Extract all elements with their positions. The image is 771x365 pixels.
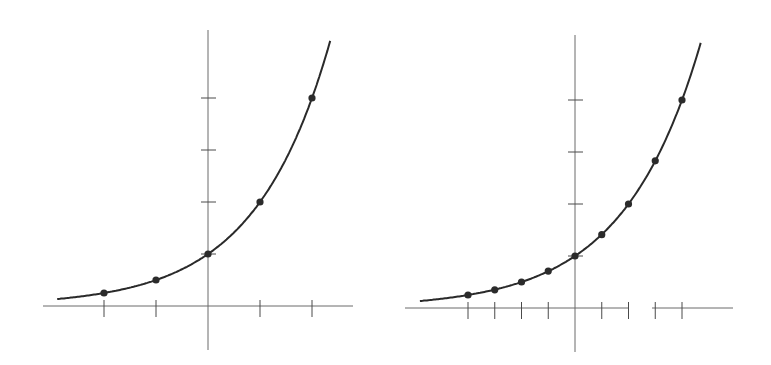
data-point [652, 157, 659, 164]
data-point [518, 278, 525, 285]
data-point [545, 267, 552, 274]
exponential-curve [420, 43, 701, 301]
data-point [678, 96, 685, 103]
data-point [571, 252, 578, 259]
data-point [464, 291, 471, 298]
data-point [491, 286, 498, 293]
data-point [625, 200, 632, 207]
exponential-chart-right [0, 0, 771, 365]
data-point [598, 231, 605, 238]
figure [0, 0, 771, 365]
